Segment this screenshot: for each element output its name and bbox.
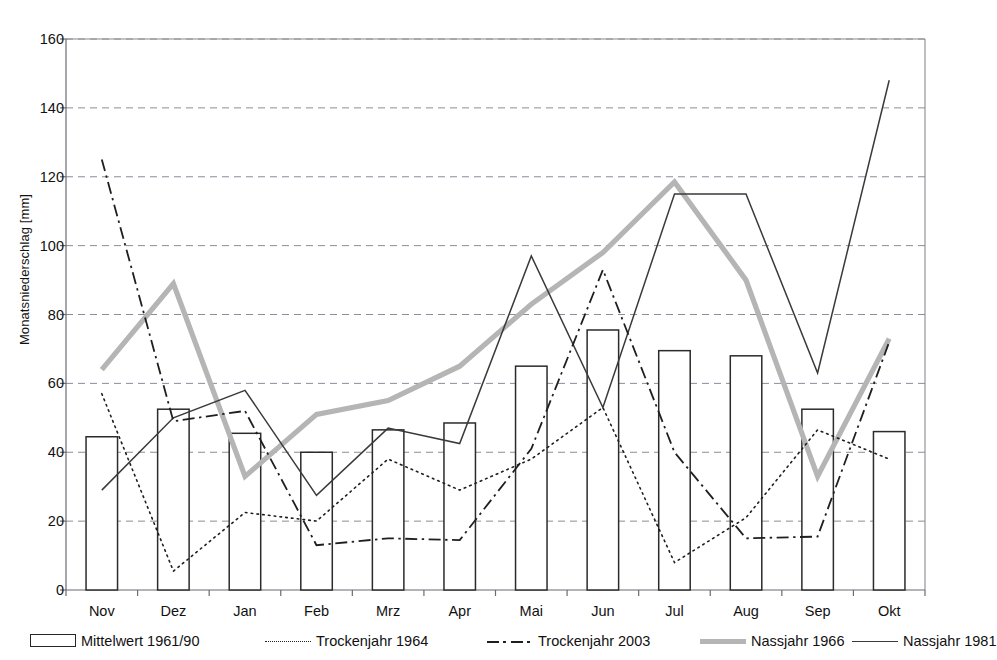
legend-swatch-icon	[487, 634, 533, 648]
legend-label: Trockenjahr 2003	[538, 633, 650, 649]
legend-line-glyph	[852, 641, 898, 642]
x-tick-label-sep: Sep	[805, 603, 831, 619]
legend-label: Nassjahr 1966	[751, 633, 845, 649]
legend-label: Mittelwert 1961/90	[81, 633, 199, 649]
legend-item-trockenjahr-1964[interactable]: Trockenjahr 1964	[265, 633, 428, 649]
x-tick-label-mai: Mai	[520, 603, 543, 619]
legend-item-trockenjahr-2003[interactable]: Trockenjahr 2003	[487, 633, 650, 649]
x-tick-label-apr: Apr	[448, 603, 471, 619]
legend-label: Trockenjahr 1964	[316, 633, 428, 649]
chart-legend: Mittelwert 1961/90Trockenjahr 1964Trocke…	[0, 624, 955, 658]
legend-swatch-icon	[30, 634, 76, 648]
legend-swatch-icon	[852, 634, 898, 648]
legend-swatch-icon	[700, 634, 746, 648]
x-tick-label-jan: Jan	[233, 603, 256, 619]
x-tick-label-mrz: Mrz	[376, 603, 400, 619]
x-tick-label-okt: Okt	[878, 603, 901, 619]
legend-label: Nassjahr 1981	[903, 633, 997, 649]
x-tick-label-feb: Feb	[304, 603, 329, 619]
x-tick-label-aug: Aug	[733, 603, 759, 619]
legend-line-glyph	[700, 639, 746, 644]
x-tick-label-nov: Nov	[89, 603, 115, 619]
legend-line-glyph	[487, 641, 533, 643]
legend-item-mittelwert-1961-90[interactable]: Mittelwert 1961/90	[30, 633, 199, 649]
x-tick-label-dez: Dez	[160, 603, 186, 619]
legend-item-nassjahr-1966[interactable]: Nassjahr 1966	[700, 633, 845, 649]
legend-line-glyph	[265, 641, 311, 642]
legend-item-nassjahr-1981[interactable]: Nassjahr 1981	[852, 633, 997, 649]
x-tick-label-jun: Jun	[591, 603, 614, 619]
legend-swatch-icon	[265, 634, 311, 648]
legend-bar-glyph	[30, 634, 76, 647]
x-tick-label-jul: Jul	[665, 603, 684, 619]
